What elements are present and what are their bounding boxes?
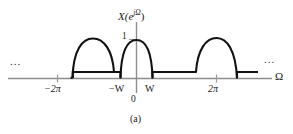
peak-value-label: 1: [122, 32, 127, 42]
tick-label-neg-w: −W: [109, 84, 124, 94]
tick-label-pos-2pi: 2π: [208, 84, 218, 94]
yaxis-title-exponent: jΩ: [133, 8, 141, 17]
lobe-right: [196, 38, 237, 78]
plateau-right: [153, 72, 197, 78]
origin-label: 0: [131, 95, 136, 105]
tick-label-pos-w: W: [145, 84, 154, 94]
figure-container: X(ejΩ) 1 0 −2π −W W 2π Ω ... ... (a): [0, 0, 293, 134]
ellipsis-left: ...: [10, 56, 21, 67]
figure-caption: (a): [130, 114, 141, 124]
xaxis-label: Ω: [275, 71, 283, 82]
yaxis-title-close: ): [141, 10, 145, 22]
yaxis-title: X(ejΩ): [118, 9, 144, 22]
plateau-far-right: [237, 72, 258, 78]
yaxis-title-main: X(e: [118, 10, 133, 22]
plateau-left-top: [73, 72, 121, 78]
spectrum-plot: [0, 0, 293, 134]
ellipsis-right: ...: [264, 54, 275, 65]
tick-label-neg-2pi: −2π: [44, 84, 61, 94]
